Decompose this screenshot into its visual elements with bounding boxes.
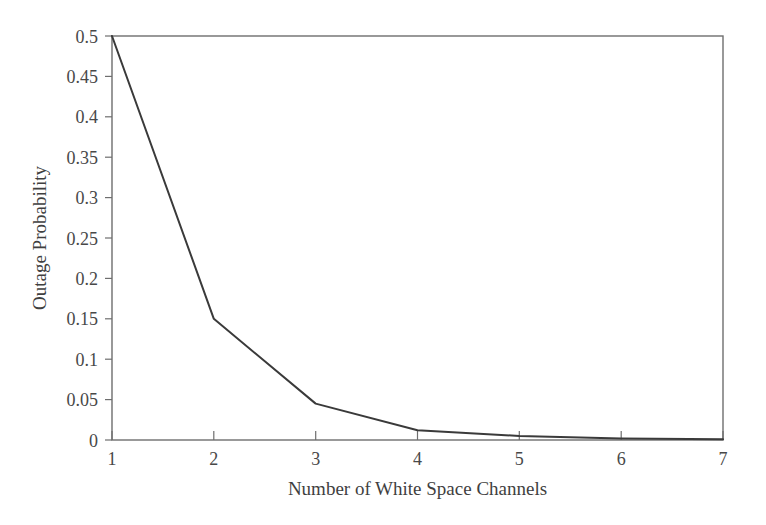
x-tick-label: 2 (209, 449, 218, 469)
x-tick-label: 1 (108, 449, 117, 469)
y-tick-label: 0.1 (76, 350, 99, 370)
y-tick-label: 0.15 (67, 309, 99, 329)
y-axis-title: Outage Probability (29, 165, 50, 310)
y-tick-label: 0.45 (67, 67, 99, 87)
y-tick-label: 0.4 (76, 107, 99, 127)
x-tick-label: 5 (515, 449, 524, 469)
x-tick-label: 7 (719, 449, 728, 469)
chart-figure: 0 0.05 0.1 0.15 0.2 0.25 0.3 0.35 0.4 0.… (0, 0, 766, 525)
x-axis-title: Number of White Space Channels (288, 478, 547, 499)
chart-background (0, 0, 766, 525)
y-tick-label: 0.2 (76, 269, 99, 289)
x-tick-label: 4 (413, 449, 422, 469)
y-tick-label: 0.35 (67, 148, 99, 168)
line-chart: 0 0.05 0.1 0.15 0.2 0.25 0.3 0.35 0.4 0.… (0, 0, 766, 525)
y-tick-label: 0.3 (76, 188, 99, 208)
x-tick-label: 6 (617, 449, 626, 469)
y-tick-label: 0.05 (67, 390, 99, 410)
y-tick-label: 0.5 (76, 27, 99, 47)
y-tick-label: 0.25 (67, 229, 99, 249)
y-tick-label: 0 (89, 431, 98, 451)
x-tick-label: 3 (311, 449, 320, 469)
